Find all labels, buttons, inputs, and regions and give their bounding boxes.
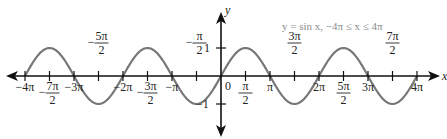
x-tick-label: −2π: [114, 80, 133, 94]
x-tick-fraction: 7π2−: [39, 79, 60, 107]
x-tick-label: −π: [166, 80, 179, 94]
svg-text:−: −: [88, 35, 95, 49]
svg-text:−: −: [39, 85, 46, 99]
svg-text:π: π: [196, 29, 202, 43]
x-tick-label: −3π: [65, 80, 84, 94]
x-tick-fraction: 3π2: [288, 29, 302, 57]
y-tick-label-neg1: −1: [196, 97, 209, 111]
svg-text:2: 2: [50, 93, 56, 107]
svg-text:2: 2: [341, 93, 347, 107]
svg-text:2: 2: [243, 93, 249, 107]
x-tick-fraction: 5π2: [337, 79, 351, 107]
x-tick-fraction: 3π2−: [137, 79, 158, 107]
svg-text:3π: 3π: [144, 79, 156, 93]
x-axis-label: x: [441, 69, 447, 83]
origin-label: 0: [225, 79, 231, 93]
svg-text:7π: 7π: [46, 79, 58, 93]
svg-text:−: −: [137, 85, 144, 99]
svg-text:2: 2: [390, 43, 396, 57]
x-tick-fraction: 5π2−: [88, 29, 109, 57]
x-tick-label: π: [267, 80, 273, 94]
svg-text:3π: 3π: [288, 29, 300, 43]
x-ticks: −4π7π2−−3π5π2−−2π3π2−−ππ2−π2π3π22π5π23π7…: [16, 29, 423, 107]
x-tick-label: −4π: [16, 80, 35, 94]
svg-text:2: 2: [292, 43, 298, 57]
svg-text:2: 2: [99, 43, 105, 57]
sine-chart: x y 1 −1 0 y = sin x, −4π ≤ x ≤ 4π −4π7π…: [0, 0, 447, 139]
svg-text:π: π: [242, 79, 248, 93]
x-tick-label: 4π: [411, 80, 423, 94]
x-tick-fraction: π2: [239, 79, 253, 107]
svg-text:−: −: [186, 35, 193, 49]
svg-text:7π: 7π: [386, 29, 398, 43]
svg-text:5π: 5π: [337, 79, 349, 93]
svg-text:2: 2: [148, 93, 154, 107]
x-tick-fraction: 7π2: [386, 29, 400, 57]
svg-text:2: 2: [197, 43, 203, 57]
x-tick-label: 2π: [313, 80, 325, 94]
x-tick-label: 3π: [362, 80, 374, 94]
y-axis-label: y: [224, 3, 231, 17]
svg-text:5π: 5π: [95, 29, 107, 43]
